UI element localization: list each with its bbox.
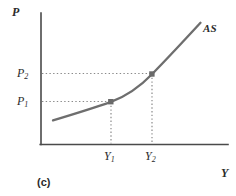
marker-point-b — [149, 71, 154, 76]
x-tick-y1-base: Y — [104, 149, 111, 163]
y-axis-title: P — [12, 6, 19, 18]
y-tick-p1-subscript: 1 — [24, 100, 28, 109]
plot-area — [0, 0, 236, 196]
y-tick-p2-subscript: 2 — [24, 72, 28, 81]
as-curve — [53, 23, 201, 121]
as-curve-figure: P Y AS P2 P1 Y1 Y2 (c) — [0, 0, 236, 196]
x-tick-y1-subscript: 1 — [111, 155, 115, 164]
x-tick-label-y2: Y2 — [145, 150, 156, 162]
y-tick-label-p2: P2 — [17, 67, 28, 79]
marker-point-a — [108, 99, 113, 104]
x-axis-title: Y — [221, 167, 228, 179]
panel-label: (c) — [37, 177, 50, 188]
x-tick-y2-base: Y — [145, 149, 152, 163]
y-tick-label-p1: P1 — [17, 95, 28, 107]
x-tick-y2-subscript: 2 — [152, 155, 156, 164]
x-tick-label-y1: Y1 — [104, 150, 115, 162]
as-curve-label: AS — [203, 23, 217, 34]
